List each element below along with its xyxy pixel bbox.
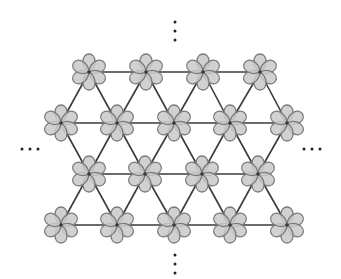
orbital-site (98, 105, 135, 141)
site-center (59, 121, 63, 125)
ellipsis-dot-right (311, 148, 314, 151)
ellipsis-dot-top (174, 39, 177, 42)
ellipsis-dot-bottom (174, 254, 177, 257)
site-center (87, 70, 91, 74)
site-center (285, 121, 289, 125)
site-center (59, 223, 63, 227)
site-center (172, 223, 176, 227)
ellipsis-dot-right (303, 148, 306, 151)
ellipsis-dot-left (21, 148, 24, 151)
site-center (201, 70, 205, 74)
ellipsis-dot-left (29, 148, 32, 151)
site-center (258, 70, 262, 74)
site-center (228, 121, 232, 125)
orbital-site (211, 207, 248, 243)
orbital-site (126, 156, 163, 192)
orbital-site (70, 156, 107, 192)
site-center (115, 223, 119, 227)
site-center (144, 70, 148, 74)
site-center (143, 172, 147, 176)
ellipsis-dot-top (174, 21, 177, 24)
triangular-lattice-diagram (0, 0, 341, 279)
site-center (87, 172, 91, 176)
ellipsis-dot-top (174, 30, 177, 33)
orbital-site (211, 105, 248, 141)
orbital-site (268, 207, 305, 243)
ellipsis-dot-bottom (174, 272, 177, 275)
orbital-site (98, 207, 135, 243)
orbital-site (127, 54, 164, 90)
lattice-sites (42, 54, 305, 243)
site-center (172, 121, 176, 125)
ellipsis-dot-right (319, 148, 322, 151)
orbital-site (268, 105, 305, 141)
orbital-site (184, 54, 221, 90)
site-center (200, 172, 204, 176)
orbital-site (42, 207, 79, 243)
orbital-site (155, 105, 192, 141)
site-center (285, 223, 289, 227)
site-center (256, 172, 260, 176)
orbital-site (239, 156, 276, 192)
ellipsis-dot-left (37, 148, 40, 151)
orbital-site (155, 207, 192, 243)
site-center (115, 121, 119, 125)
orbital-site (42, 105, 79, 141)
orbital-site (70, 54, 107, 90)
orbital-site (241, 54, 278, 90)
ellipsis-dot-bottom (174, 263, 177, 266)
site-center (228, 223, 232, 227)
orbital-site (183, 156, 220, 192)
lattice-bonds (61, 72, 287, 225)
